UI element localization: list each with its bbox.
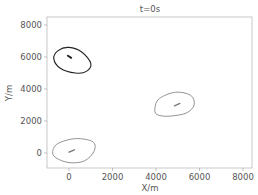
y-axis-label: Y/m xyxy=(4,85,14,102)
x-tick-label: 0 xyxy=(66,172,71,182)
x-tick-label: 4000 xyxy=(145,172,167,182)
x-tick-label: 2000 xyxy=(102,172,124,182)
y-tick-label: 4000 xyxy=(20,84,42,94)
plot-area xyxy=(47,17,252,168)
x-tick-label: 6000 xyxy=(189,172,211,182)
y-tick-label: 6000 xyxy=(20,52,42,62)
chart-title: t=0s xyxy=(140,4,161,14)
x-tick-label: 8000 xyxy=(232,172,254,182)
x-axis-label: X/m xyxy=(142,183,159,193)
chart: t=0s 02000400060008000 02000400060008000… xyxy=(0,0,258,195)
y-tick-label: 0 xyxy=(37,148,42,158)
axes-frame xyxy=(47,17,252,168)
y-tick-label: 2000 xyxy=(20,116,42,126)
y-tick-label: 8000 xyxy=(20,20,42,30)
